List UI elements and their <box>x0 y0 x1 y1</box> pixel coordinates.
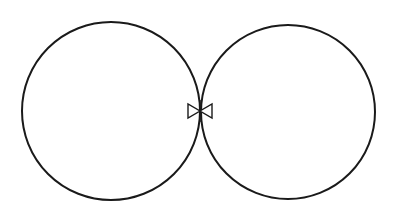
right-circle <box>201 25 375 199</box>
figure-canvas <box>0 0 397 216</box>
bowtie-left-triangle <box>188 104 200 118</box>
left-circle <box>22 22 200 200</box>
bowtie-symbol <box>188 100 212 122</box>
diagram-svg <box>0 0 397 216</box>
